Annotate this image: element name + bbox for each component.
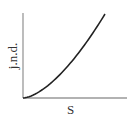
jnd-curve [23,14,105,98]
x-axis-label: S [67,102,74,118]
y-axis-label: j.n.d. [5,41,21,71]
